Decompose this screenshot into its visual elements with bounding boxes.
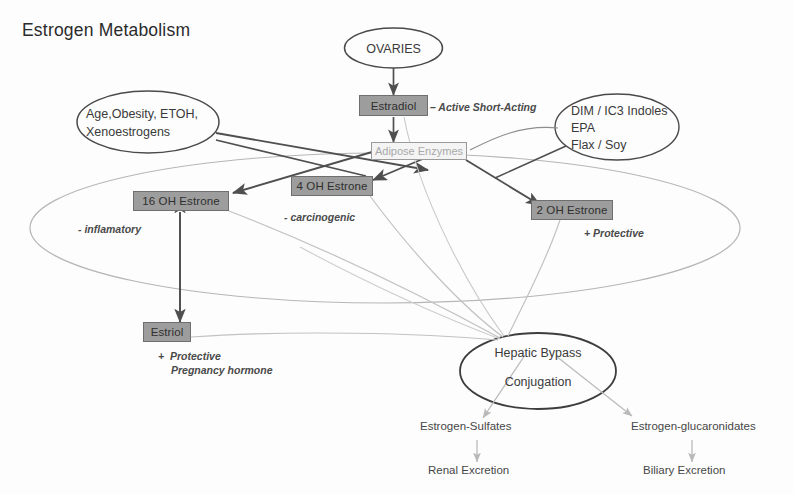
node-renal-excretion: Renal Excretion — [428, 464, 509, 476]
node-estriol-note-line2: Pregnancy hormone — [171, 363, 273, 377]
node-estradiol-note: – Active Short-Acting — [430, 100, 536, 114]
node-estriol-note-line1: + Protective — [158, 349, 221, 363]
edge-modifiers-to-16oh — [216, 139, 238, 193]
edge-pool-to-hepatic — [300, 247, 500, 339]
node-16-oh-estrone: 16 OH Estrone — [133, 191, 229, 211]
edge-16oh-to-hepatic — [229, 211, 500, 338]
node-modifiers-label-line2: Xenoestrogens — [86, 124, 170, 141]
node-16-oh-estrone-note: - inflamatory — [78, 222, 141, 236]
node-estrogen-sulfates: Estrogen-Sulfates — [420, 420, 511, 432]
node-2-oh-estrone: 2 OH Estrone — [531, 200, 613, 220]
diagram-canvas: Estrogen Metabolism OVARIES Estradiol – … — [0, 0, 793, 494]
node-conjugation-label: Conjugation — [478, 374, 598, 391]
edge-estriol-to-hepatic — [191, 333, 498, 340]
node-estriol: Estriol — [143, 322, 191, 342]
edge-adipose-to-2oh — [466, 160, 540, 205]
node-4-oh-estrone: 4 OH Estrone — [291, 176, 373, 196]
node-supplements-label-line2: EPA — [571, 120, 595, 137]
node-adipose-enzymes: Adipose Enzymes — [371, 142, 467, 160]
node-ovaries-label: OVARIES — [345, 41, 442, 58]
node-4-oh-estrone-note: - carcinogenic — [284, 210, 355, 224]
page-title: Estrogen Metabolism — [22, 20, 190, 41]
edge-2oh-to-hepatic — [508, 220, 560, 336]
node-supplements-label-line1: DIM / IC3 Indoles — [571, 103, 668, 120]
edge-supplements-to-adipose — [470, 127, 558, 150]
node-estradiol: Estradiol — [359, 95, 428, 116]
node-biliary-excretion: Biliary Excretion — [643, 464, 725, 476]
node-2-oh-estrone-note: + Protective — [584, 226, 644, 240]
node-estrogen-glucaronidates: Estrogen-glucaronidates — [631, 420, 756, 432]
node-hepatic-bypass-label: Hepatic Bypass — [478, 345, 598, 362]
node-supplements-label-line3: Flax / Soy — [571, 137, 627, 154]
node-modifiers-label-line1: Age,Obesity, ETOH, — [86, 106, 198, 123]
